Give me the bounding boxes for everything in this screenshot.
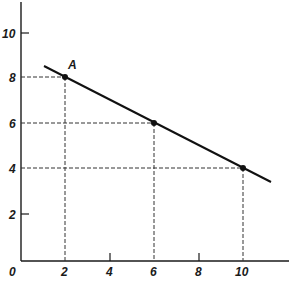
point-a-label: A [67, 58, 77, 72]
x-label-4: 4 [105, 265, 113, 279]
y-label-2: 2 [8, 208, 16, 222]
y-label-6: 6 [9, 117, 16, 131]
point-a [62, 74, 68, 80]
y-label-8: 8 [9, 71, 16, 85]
chart: A 10 8 6 4 2 0 2 4 6 8 10 [0, 0, 289, 283]
y-label-4: 4 [8, 162, 16, 176]
point-6-6 [151, 120, 157, 126]
data-line [44, 66, 271, 182]
x-label-6: 6 [150, 265, 157, 279]
x-label-10: 10 [235, 265, 249, 279]
y-label-10: 10 [2, 27, 16, 41]
x-label-0: 0 [9, 265, 16, 279]
point-10-4 [240, 165, 246, 171]
x-label-8: 8 [195, 265, 202, 279]
x-label-2: 2 [60, 265, 68, 279]
